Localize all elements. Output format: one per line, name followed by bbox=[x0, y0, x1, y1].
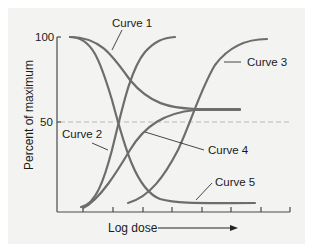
curve-4 bbox=[83, 110, 240, 208]
curve-5-label: Curve 5 bbox=[215, 176, 255, 188]
y-axis-title: Percent of maximum bbox=[22, 60, 36, 170]
curve-2-leader bbox=[92, 143, 108, 150]
curve-3-label: Curve 3 bbox=[247, 56, 287, 68]
x-axis-title: Log dose bbox=[108, 221, 158, 235]
curve-2-label: Curve 2 bbox=[62, 128, 102, 140]
curve-1-leader bbox=[112, 30, 122, 50]
y-tick-100: 100 bbox=[35, 31, 54, 43]
curve-4-leader bbox=[145, 132, 204, 150]
curve-1-label: Curve 1 bbox=[112, 17, 152, 29]
curve-4-label: Curve 4 bbox=[208, 144, 249, 156]
x-axis bbox=[57, 207, 290, 212]
increasing-dose-arrow bbox=[158, 225, 238, 231]
y-tick-50: 50 bbox=[40, 116, 53, 128]
curve-5-leader bbox=[196, 183, 212, 200]
dose-response-chart: Curve 1 Curve 2 Curve 3 Curve 4 Curve 5 … bbox=[0, 0, 314, 252]
y-axis bbox=[57, 37, 61, 212]
curve-1 bbox=[70, 37, 240, 109]
